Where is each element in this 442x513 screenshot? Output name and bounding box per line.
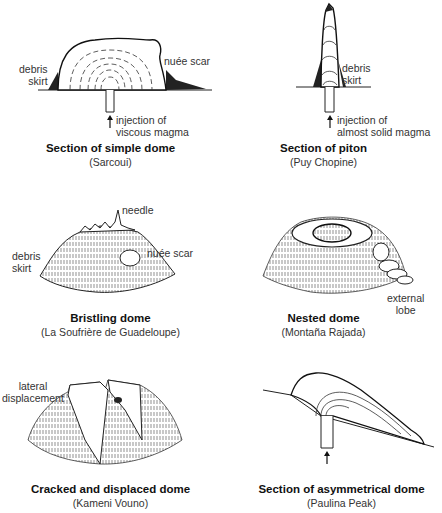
label-line: injection of [337,114,430,126]
label-injection: injection of almost solid magma [337,114,430,138]
panel-title: Cracked and displaced dome [0,483,221,495]
label-line: external [387,292,424,304]
panel-title: Nested dome [213,312,434,324]
label-line: debris [342,62,371,74]
panel-subtitle: (Montaña Rajada) [213,326,434,338]
label-line: injection of [116,114,189,126]
label-line: skirt [12,262,41,274]
label-debris-skirt: debris skirt [12,250,41,274]
label-nuee-scar: nuée scar [147,247,193,259]
panel-subtitle: (Puy Chopine) [213,156,434,168]
label-debris-skirt: debris skirt [19,63,48,87]
panel-cracked-dome: lateral displacement Cracked and displac… [0,340,221,513]
label-injection: injection of viscous magma [116,114,189,138]
label-line: skirt [342,74,371,86]
panel-nested-dome: external lobe Nested dome (Montaña Rajad… [221,170,442,340]
label-line: debris [12,250,41,262]
label-line: viscous magma [116,126,189,138]
panel-title: Section of asymmetrical dome [231,483,442,495]
panel-subtitle: (La Soufrière de Guadeloupe) [0,326,221,338]
label-debris-skirt: debris skirt [342,62,371,86]
panel-title: Section of piton [213,142,434,154]
label-nuee-scar: nuée scar [164,55,210,67]
label-line: almost solid magma [337,126,430,138]
label-line: displacement [2,392,64,404]
label-line: debris [19,63,48,75]
panel-bristling-dome: needle debris skirt nuée scar Bristling … [0,170,221,340]
panel-subtitle: (Paulina Peak) [231,497,442,509]
panel-title: Bristling dome [0,312,221,324]
panel-subtitle: (Kameni Vouno) [0,497,221,509]
label-line: lateral [2,380,64,392]
panel-title: Section of simple dome [0,142,221,154]
panel-simple-dome: debris skirt nuée scar injection of visc… [0,0,221,170]
panel-asymmetrical-dome: Section of asymmetrical dome (Paulina Pe… [221,340,442,513]
label-needle: needle [122,204,154,216]
label-line: skirt [19,75,48,87]
panel-piton: debris skirt injection of almost solid m… [221,0,442,170]
label-lateral-displacement: lateral displacement [2,380,64,404]
panel-subtitle: (Sarcoui) [0,156,221,168]
